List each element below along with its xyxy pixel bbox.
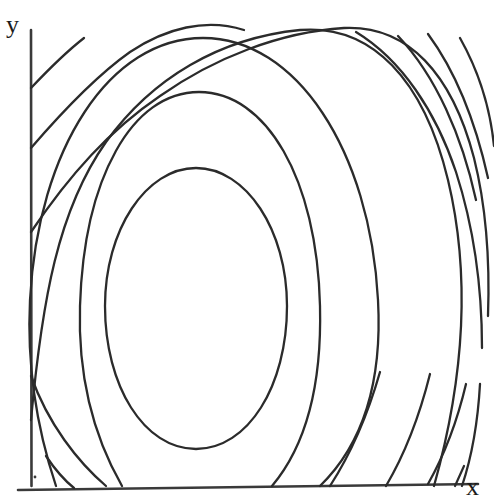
contour-level-5 (31, 28, 488, 316)
contour-level-5-lower-arc (31, 376, 106, 486)
contour-level-8-right-arc (428, 34, 488, 178)
contour-level-7-upper-arc (31, 38, 84, 88)
contour-lower-left-arc-1 (46, 456, 74, 488)
contour-plot-canvas (0, 0, 494, 504)
axes-group (18, 30, 478, 490)
contour-level-3 (29, 38, 378, 486)
x-axis-label: x (466, 474, 479, 500)
contour-level-6-lower-right-arc (462, 384, 480, 486)
contour-level-1 (105, 168, 287, 449)
contour-lower-right-arc-2 (386, 374, 430, 486)
contour-level-7-right-arc (398, 36, 476, 200)
contour-plot-figure: y x (0, 0, 494, 504)
origin-tick (34, 476, 37, 479)
contour-level-2 (80, 92, 320, 486)
contour-curves-group (29, 25, 494, 488)
horizontal-axis (18, 484, 478, 490)
y-axis-label: y (6, 12, 19, 38)
contour-level-6-upper-arc (31, 25, 244, 148)
contour-level-6-right-arc (356, 32, 482, 348)
